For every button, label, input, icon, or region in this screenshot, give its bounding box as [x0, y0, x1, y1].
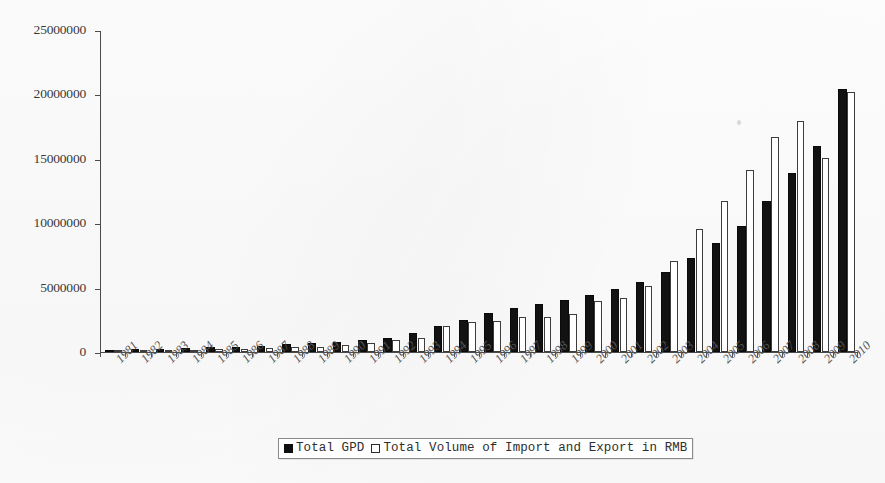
bar-group	[788, 31, 805, 352]
bar-total-volume-import-export	[797, 121, 805, 352]
chart-legend: Total GPD Total Volume of Import and Exp…	[278, 438, 693, 459]
y-tick: 10000000	[95, 224, 100, 225]
bar-group	[131, 31, 148, 352]
bar-group	[510, 31, 527, 352]
bar-total-gpd	[788, 173, 797, 352]
bar-group	[434, 31, 451, 352]
bar-total-gpd	[687, 258, 696, 352]
bar-group	[636, 31, 653, 352]
y-axis-line	[100, 31, 101, 353]
y-tick-label: 10000000	[34, 215, 86, 231]
bar-group	[105, 31, 122, 352]
y-tick: 5000000	[95, 289, 100, 290]
bar-total-volume-import-export	[620, 298, 628, 352]
bar-total-volume-import-export	[721, 201, 729, 352]
bar-group	[585, 31, 602, 352]
bar-total-gpd	[737, 226, 746, 352]
legend-label-total-volume: Total Volume of Import and Export in RMB	[383, 441, 687, 455]
bar-total-volume-import-export	[645, 286, 653, 352]
y-tick-label: 5000000	[40, 280, 86, 296]
bar-group	[156, 31, 173, 352]
legend-entry-total-gpd: Total GPD	[284, 441, 364, 455]
bar-group	[560, 31, 577, 352]
bar-total-volume-import-export	[746, 170, 754, 352]
bar-total-gpd	[762, 201, 771, 352]
bar-group	[535, 31, 552, 352]
legend-label-total-gpd: Total GPD	[296, 441, 364, 455]
legend-swatch-dark-icon	[284, 444, 293, 453]
bar-group	[257, 31, 274, 352]
bar-group	[687, 31, 704, 352]
bar-group	[232, 31, 249, 352]
bar-group	[308, 31, 325, 352]
bar-group	[333, 31, 350, 352]
y-tick: 20000000	[95, 95, 100, 96]
bar-group	[737, 31, 754, 352]
bar-group	[762, 31, 779, 352]
bar-total-volume-import-export	[670, 261, 678, 352]
bar-total-volume-import-export	[822, 158, 830, 352]
legend-entry-total-volume: Total Volume of Import and Export in RMB	[371, 441, 687, 455]
bar-total-volume-import-export	[594, 301, 602, 352]
bar-group	[484, 31, 501, 352]
bar-group	[813, 31, 830, 352]
x-axis-labels: 1981198219831984198519861987198819891990…	[100, 356, 858, 416]
plot-area: 0500000010000000150000002000000025000000	[100, 31, 858, 353]
y-tick-label: 20000000	[34, 86, 86, 102]
chart-page: 0500000010000000150000002000000025000000…	[0, 0, 885, 483]
y-tick: 15000000	[95, 160, 100, 161]
bar-group	[712, 31, 729, 352]
bar-group	[358, 31, 375, 352]
legend-swatch-light-icon	[371, 444, 380, 453]
bar-group	[181, 31, 198, 352]
bar-total-volume-import-export	[696, 229, 704, 352]
bar-group	[838, 31, 855, 352]
bar-group	[282, 31, 299, 352]
bar-total-volume-import-export	[569, 314, 577, 352]
bar-total-volume-import-export	[771, 137, 779, 352]
bar-group	[459, 31, 476, 352]
y-tick-label: 15000000	[34, 151, 86, 167]
bar-total-gpd	[813, 146, 822, 352]
bar-total-gpd	[712, 243, 721, 352]
y-tick: 25000000	[95, 31, 100, 32]
y-tick-label: 0	[79, 344, 86, 360]
bar-total-volume-import-export	[847, 92, 855, 352]
bar-group	[409, 31, 426, 352]
bar-total-gpd	[105, 350, 114, 353]
y-tick-label: 25000000	[34, 22, 86, 38]
bar-group	[383, 31, 400, 352]
bar-group	[661, 31, 678, 352]
bar-total-gpd	[838, 89, 847, 352]
bar-group	[206, 31, 223, 352]
bar-group	[611, 31, 628, 352]
